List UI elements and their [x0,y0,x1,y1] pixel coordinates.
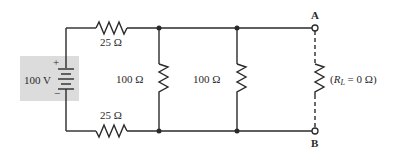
terminal-b-label: B [311,137,319,149]
bottom-series-resistor-icon [96,125,127,137]
terminal-a-icon [312,25,318,31]
source-voltage-label: 100 V [24,74,51,86]
bottom-series-resistor-label: 25 Ω [100,109,122,121]
load-resistor-icon [315,64,324,95]
shunt-2-resistor-label: 100 Ω [193,73,220,85]
source-minus-sign: − [54,87,60,99]
shunt-1-resistor-label: 100 Ω [116,73,143,85]
top-series-resistor-label: 25 Ω [100,36,122,48]
shunt-2-resistor-icon [237,64,246,95]
source-plus-sign: + [53,56,59,68]
shunt-1-resistor-icon [159,64,168,95]
circuit-diagram: + − 100 V 25 Ω 25 Ω 100 Ω 100 Ω (RL = 0 … [0,0,399,160]
top-series-resistor-icon [96,22,127,34]
load-resistor-label: (RL = 0 Ω) [330,73,377,87]
terminal-b-icon [312,128,318,134]
terminal-a-label: A [311,9,319,21]
